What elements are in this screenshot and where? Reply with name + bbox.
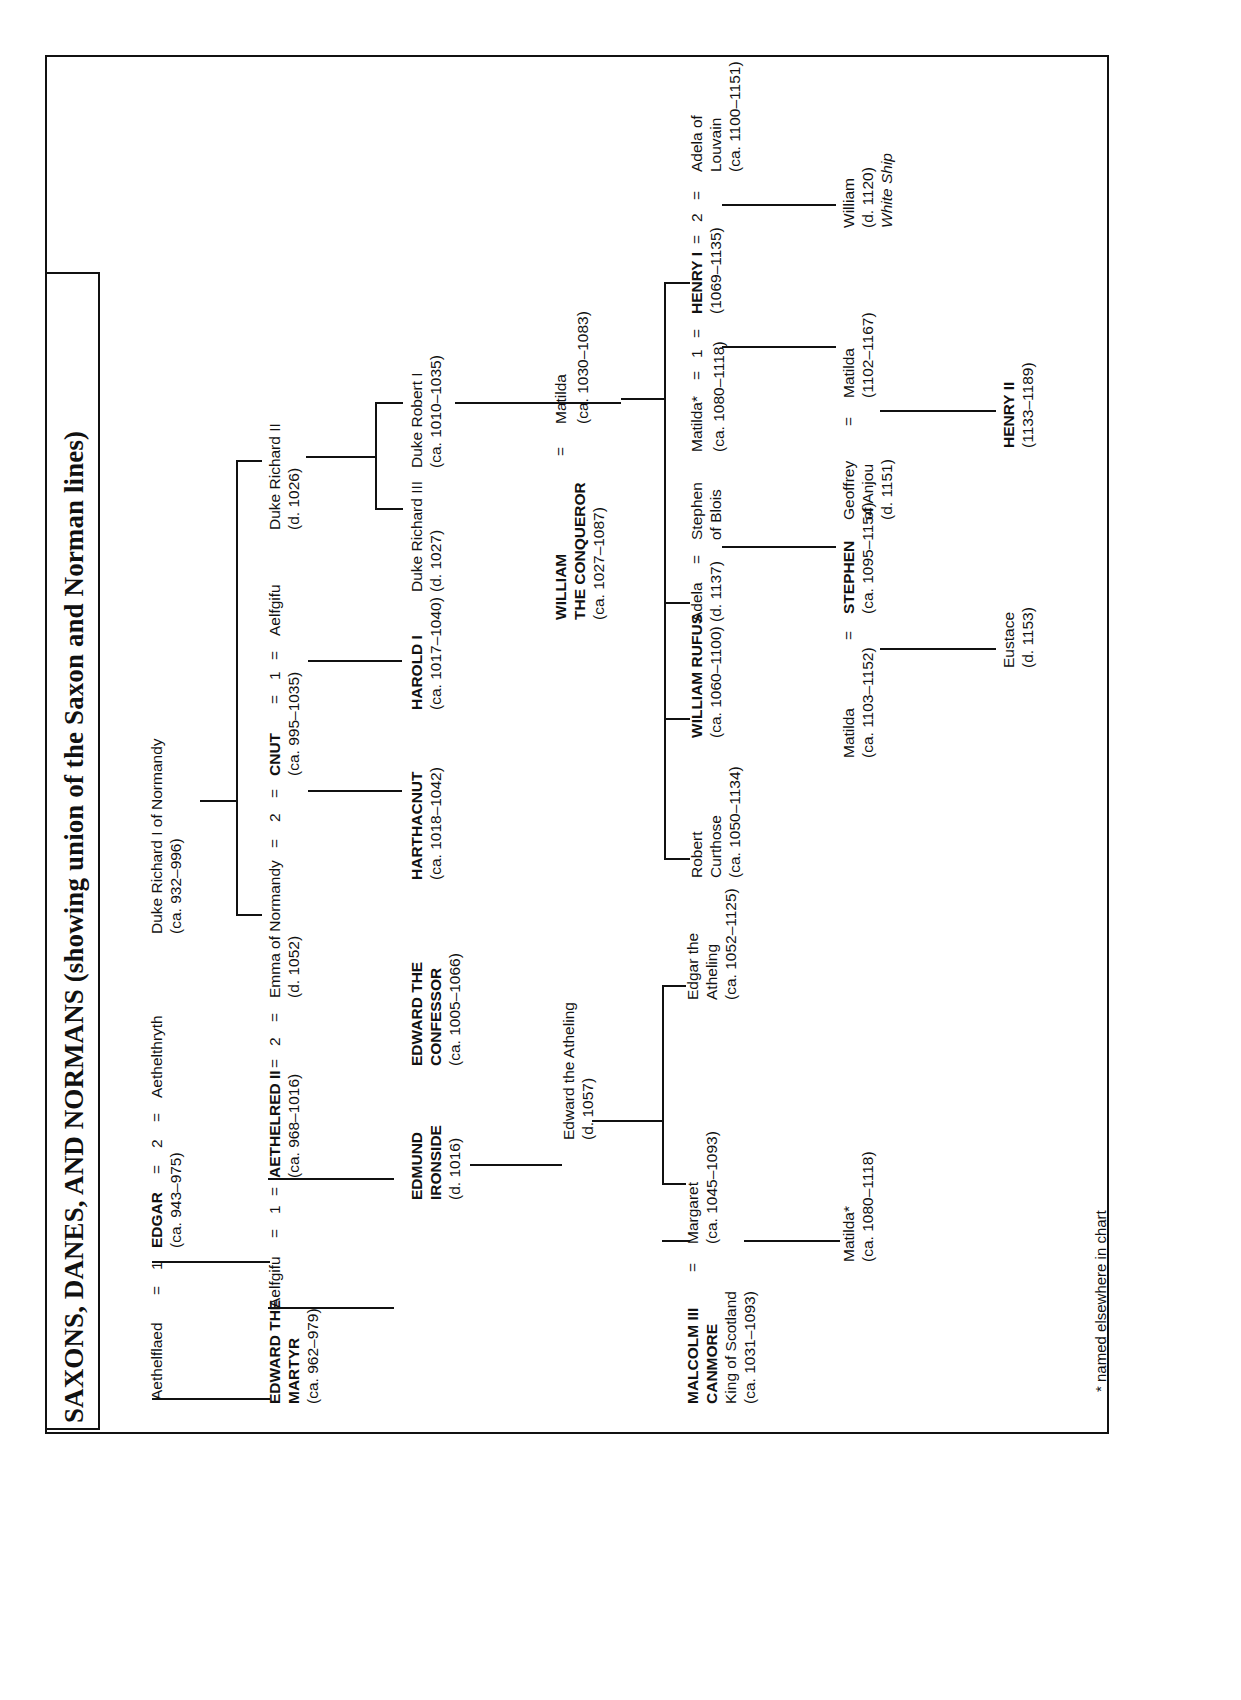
person-name: AETHELRED II: [266, 1070, 285, 1178]
person-name-line1: MALCOLM III: [684, 1291, 703, 1404]
marriage-eq-1a: =: [148, 1286, 167, 1295]
person-dates: (ca. 1080–1118): [859, 1151, 878, 1262]
person-name-line2: CONFESSOR: [427, 953, 446, 1066]
person-dates: (d. 1027): [427, 481, 446, 592]
marriage-eq-3a: =: [148, 1113, 167, 1122]
person-name-line1: WILLIAM: [552, 482, 571, 620]
person-dates: (ca. 968–1016): [285, 1070, 304, 1178]
person-dates: (d. 1120): [859, 153, 878, 228]
connector: [664, 718, 690, 720]
connector: [200, 800, 238, 802]
person-name: William: [840, 153, 859, 228]
person-aelfgifu-1: Aelfgifu: [266, 1256, 285, 1308]
person-margaret: Margaret (ca. 1045–1093): [684, 1131, 722, 1244]
person-name: Aelfgifu: [266, 1256, 285, 1308]
person-name: HARTHACNUT: [408, 767, 427, 880]
person-adela: Adela (d. 1137): [688, 561, 726, 622]
genealogy-chart-page: SAXONS, DANES, AND NORMANS (showing unio…: [0, 0, 1241, 1700]
person-duke-robert-i: Duke Robert I (ca. 1010–1035): [408, 355, 446, 468]
person-dates: (ca. 1010–1035): [427, 355, 446, 468]
person-henry-ii: HENRY II (1133–1189): [1000, 362, 1038, 448]
person-name-line1: EDMUND: [408, 1125, 427, 1200]
person-name-line2: of Blois: [707, 482, 726, 540]
person-harthacnut: HARTHACNUT (ca. 1018–1042): [408, 767, 446, 880]
person-dates: (ca. 1060–1100): [707, 614, 726, 738]
person-name: HAROLD I: [408, 597, 427, 710]
marriage-order-h2: 2: [688, 213, 707, 222]
connector: [664, 282, 666, 858]
connector: [470, 1164, 562, 1166]
person-name-line1: Geoffrey: [840, 459, 859, 520]
person-aethelred-ii: AETHELRED II (ca. 968–1016): [266, 1070, 304, 1178]
person-matilda-star-dates: (ca. 1080–1118): [710, 341, 729, 452]
person-geoffrey-of-anjou: Geoffrey of Anjou (d. 1151): [840, 459, 897, 520]
connector: [236, 914, 262, 916]
connector: [662, 1183, 686, 1185]
person-name-line2: CANMORE: [703, 1291, 722, 1404]
marriage-eq-c1: =: [266, 839, 285, 848]
person-dates: (ca. 1052–1125): [722, 888, 741, 1000]
marriage-eq-h1: =: [688, 371, 707, 380]
connector: [722, 546, 836, 548]
person-name-line2: of Anjou: [859, 459, 878, 520]
person-emma-of-normandy: Emma of Normandy (d. 1052): [266, 860, 304, 998]
person-name: WILLIAM RUFUS: [688, 614, 707, 738]
marriage-eq-c3: =: [266, 695, 285, 704]
marriage-eq-2a: =: [148, 1165, 167, 1174]
person-name-line2: Atheling: [703, 888, 722, 1000]
person-name-line2: Louvain: [707, 61, 726, 172]
person-edward-the-atheling: Edward the Atheling (d. 1057): [560, 1002, 598, 1140]
person-name-line1: Stephen: [688, 482, 707, 540]
connector: [744, 1240, 840, 1242]
marriage-eq-adela: =: [688, 555, 707, 564]
person-cnut: CNUT (ca. 995–1035): [266, 672, 304, 776]
person-duke-richard-i: Duke Richard I of Normandy (ca. 932–996): [148, 738, 186, 934]
connector: [722, 204, 836, 206]
person-dates: (ca. 1027–1087): [590, 482, 609, 620]
person-name: Duke Richard I of Normandy: [148, 738, 167, 934]
person-william-the-conqueror: WILLIAM THE CONQUEROR (ca. 1027–1087): [552, 482, 609, 620]
person-dates: (d. 1057): [579, 1002, 598, 1140]
chart-footnote: * named elsewhere in chart: [1092, 1210, 1109, 1392]
person-dates: (ca. 1018–1042): [427, 767, 446, 880]
person-dates: (ca. 1050–1134): [726, 766, 745, 878]
connector: [880, 410, 996, 412]
person-eustace: Eustace (d. 1153): [1000, 607, 1038, 668]
person-stephen-of-blois: Stephen of Blois: [688, 482, 726, 540]
person-dates: (ca. 1100–1151): [726, 61, 745, 172]
person-name: HENRY II: [1000, 362, 1019, 448]
person-edward-the-martyr: EDWARD THE MARTYR (ca. 962–979): [266, 1300, 323, 1404]
person-name: Matilda*: [688, 396, 707, 452]
person-dates: (1069–1135): [707, 227, 726, 314]
person-note: White Ship: [878, 153, 897, 228]
marriage-eq-b4: =: [266, 1013, 285, 1022]
person-harold-i: HAROLD I (ca. 1017–1040): [408, 597, 446, 710]
person-name: Matilda: [840, 647, 859, 758]
person-malcolm-iii: MALCOLM III CANMORE King of Scotland (ca…: [684, 1291, 760, 1404]
person-dates: (ca. 995–1035): [285, 672, 304, 776]
person-name: CNUT: [266, 672, 285, 776]
person-dates: (ca. 962–979): [304, 1300, 323, 1404]
marriage-order-b1: 1: [266, 1205, 285, 1214]
connector: [664, 282, 690, 284]
marriage-eq-b3: =: [266, 1059, 285, 1068]
chart-title-box: SAXONS, DANES, AND NORMANS (showing unio…: [45, 272, 100, 1430]
marriage-eq-c4: =: [266, 651, 285, 660]
connector: [236, 460, 238, 916]
person-name-line1: Robert: [688, 766, 707, 878]
connector: [662, 985, 686, 987]
connector: [308, 660, 402, 662]
marriage-eq-h4: =: [688, 191, 707, 200]
connector: [308, 790, 402, 792]
connector: [662, 985, 664, 1185]
person-name-line2: THE CONQUEROR: [571, 482, 590, 620]
marriage-order-1a: 1: [148, 1261, 167, 1270]
person-dates: (ca. 1017–1040): [427, 597, 446, 710]
marriage-eq-h3: =: [688, 235, 707, 244]
marriage-order-c2: 1: [266, 671, 285, 680]
person-name: Adela: [688, 561, 707, 622]
person-name-line1: EDWARD THE: [266, 1300, 285, 1404]
person-dates: (d. 1137): [707, 561, 726, 622]
person-aelfgifu-2: Aelfgifu: [266, 584, 285, 636]
marriage-order-b2: 2: [266, 1037, 285, 1046]
